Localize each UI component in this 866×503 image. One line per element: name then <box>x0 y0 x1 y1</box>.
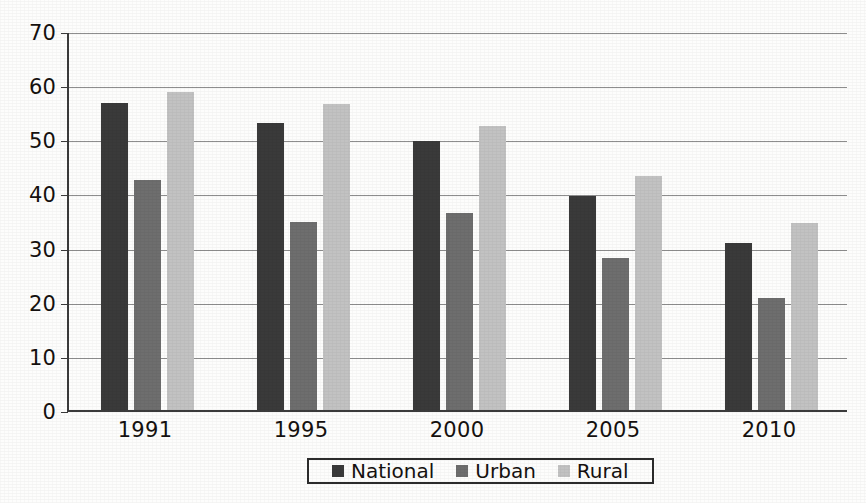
y-axis-label-30: 30 <box>29 238 56 262</box>
legend-label-urban: Urban <box>475 459 536 483</box>
bar-national-1995[interactable] <box>257 123 284 410</box>
x-axis-label-2000: 2000 <box>397 418 517 442</box>
bar-national-2010[interactable] <box>725 243 752 410</box>
y-tick-mark-30 <box>61 250 68 251</box>
bar-urban-2005[interactable] <box>602 258 629 410</box>
chart-legend: NationalUrbanRural <box>307 458 654 484</box>
x-axis-label-1991: 1991 <box>85 418 205 442</box>
bar-group-2005 <box>569 33 662 410</box>
y-tick-mark-0 <box>61 412 68 413</box>
bar-rural-1991[interactable] <box>167 92 194 410</box>
y-tick-mark-60 <box>61 87 68 88</box>
bar-national-2000[interactable] <box>413 141 440 410</box>
x-axis-label-1995: 1995 <box>241 418 361 442</box>
x-axis-label-2010: 2010 <box>709 418 829 442</box>
y-axis-label-40: 40 <box>29 183 56 207</box>
bar-urban-1991[interactable] <box>134 180 161 410</box>
legend-item-national[interactable]: National <box>332 459 434 483</box>
bar-group-2010 <box>725 33 818 410</box>
y-tick-mark-20 <box>61 304 68 305</box>
x-axis-label-2005: 2005 <box>553 418 673 442</box>
y-tick-mark-70 <box>61 33 68 34</box>
y-axis-label-50: 50 <box>29 129 56 153</box>
legend-label-national: National <box>351 459 434 483</box>
y-tick-mark-40 <box>61 195 68 196</box>
legend-item-urban[interactable]: Urban <box>456 459 536 483</box>
y-tick-mark-50 <box>61 141 68 142</box>
chart-screenshot: 010203040506070 19911995200020052010 Nat… <box>0 0 866 503</box>
y-axis-label-0: 0 <box>42 400 56 424</box>
bar-national-2005[interactable] <box>569 196 596 410</box>
legend-label-rural: Rural <box>577 459 629 483</box>
bar-rural-2010[interactable] <box>791 223 818 410</box>
bar-group-2000 <box>413 33 506 410</box>
bar-group-1991 <box>101 33 194 410</box>
bar-urban-2010[interactable] <box>758 298 785 410</box>
y-tick-mark-10 <box>61 358 68 359</box>
bar-rural-2005[interactable] <box>635 176 662 410</box>
bar-urban-1995[interactable] <box>290 222 317 410</box>
y-axis-label-60: 60 <box>29 75 56 99</box>
y-axis-label-70: 70 <box>29 21 56 45</box>
legend-swatch-rural-icon <box>558 465 570 477</box>
legend-swatch-urban-icon <box>456 465 468 477</box>
plot-area: 010203040506070 <box>67 33 847 412</box>
legend-item-rural[interactable]: Rural <box>558 459 629 483</box>
bar-urban-2000[interactable] <box>446 213 473 410</box>
y-axis-label-20: 20 <box>29 292 56 316</box>
bar-rural-2000[interactable] <box>479 126 506 410</box>
bar-rural-1995[interactable] <box>323 104 350 410</box>
legend-swatch-national-icon <box>332 465 344 477</box>
bar-group-1995 <box>257 33 350 410</box>
y-axis-label-10: 10 <box>29 346 56 370</box>
bar-national-1991[interactable] <box>101 103 128 410</box>
